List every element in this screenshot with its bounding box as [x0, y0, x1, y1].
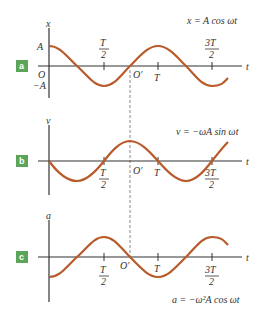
svg-text:3T: 3T [204, 37, 217, 48]
svg-text:3T: 3T [204, 264, 217, 275]
tick-label-3half-period-a: 3T 2 [204, 37, 219, 60]
svg-text:T: T [100, 167, 107, 178]
amplitude-neg-label: −A [33, 80, 47, 91]
shm-figure: a x t A −A O O′ T 2 T 3T 2 x = A cos ωt … [0, 0, 260, 317]
tick-label-half-period-c: T 2 [99, 264, 109, 287]
shifted-origin-label-b: O′ [133, 165, 143, 176]
shifted-origin-label-a: O′ [133, 69, 143, 80]
svg-text:2: 2 [209, 49, 214, 60]
svg-text:2: 2 [101, 49, 106, 60]
tick-label-period-b: T [154, 167, 161, 178]
svg-text:2: 2 [209, 179, 214, 190]
badge-c-label: c [19, 252, 24, 262]
svg-text:T: T [100, 37, 107, 48]
panel-c-acceleration: c a t O′ T 2 T 3T 2 a = −ω²A cos ωt [16, 210, 249, 305]
y-axis-label-c: a [46, 210, 51, 221]
origin-label-a: O [38, 69, 45, 80]
tick-label-3half-period-c: 3T 2 [204, 264, 219, 287]
badge-b-label: b [19, 156, 25, 166]
svg-text:2: 2 [101, 179, 106, 190]
svg-text:2: 2 [101, 276, 106, 287]
tick-label-half-period-a: T 2 [99, 37, 109, 60]
equation-c: a = −ω²A cos ωt [172, 294, 240, 305]
y-axis-label-b: v [46, 115, 51, 126]
t-axis-label-a: t [246, 61, 249, 72]
equation-b: v = −ωA sin ωt [176, 126, 239, 137]
amplitude-pos-label: A [36, 41, 44, 52]
y-axis-label-a: x [45, 18, 51, 29]
equation-a: x = A cos ωt [186, 15, 237, 26]
t-axis-label-c: t [246, 252, 249, 263]
svg-text:2: 2 [209, 276, 214, 287]
panel-a-position: a x t A −A O O′ T 2 T 3T 2 x = A cos ωt [16, 15, 249, 98]
tick-label-period-a: T [154, 72, 161, 83]
t-axis-label-b: t [246, 156, 249, 167]
panel-b-velocity: b v t O′ T 2 T 3T 2 v = −ωA sin ωt [16, 115, 249, 195]
shifted-origin-label-c: O′ [120, 260, 130, 271]
tick-label-half-period-b: T 2 [99, 167, 109, 190]
svg-text:T: T [100, 264, 107, 275]
tick-label-period-c: T [154, 263, 161, 274]
tick-label-3half-period-b: 3T 2 [204, 167, 219, 190]
